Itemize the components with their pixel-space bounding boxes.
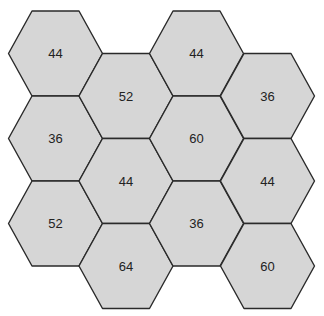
hex-value: 52 (119, 89, 133, 104)
hex-value: 64 (119, 259, 133, 274)
hex-value: 44 (260, 174, 274, 189)
hex-value: 60 (189, 131, 203, 146)
hexagon-grid-canvas: 44 36 52 52 44 64 44 60 (0, 0, 324, 316)
hex-value: 36 (189, 216, 203, 231)
hex-value: 36 (48, 131, 62, 146)
hex-value: 44 (119, 174, 133, 189)
hex-value: 44 (48, 46, 62, 61)
hexagon-grid-diagram: 44 36 52 52 44 64 44 60 (0, 0, 324, 316)
hex-value: 60 (260, 259, 274, 274)
hex-value: 52 (48, 216, 62, 231)
hex-value: 36 (260, 89, 274, 104)
hex-value: 44 (189, 46, 203, 61)
